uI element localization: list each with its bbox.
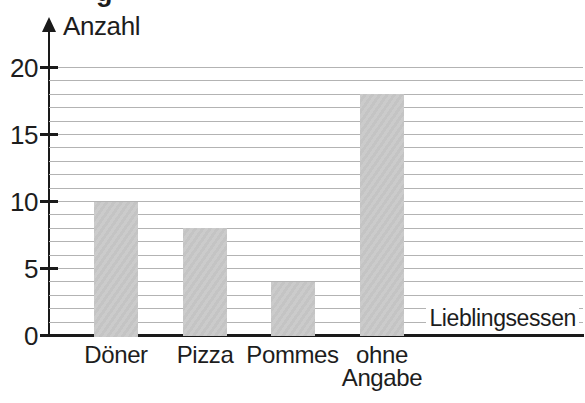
y-tick-15 — [40, 133, 58, 136]
y-tick-label-5: 5 — [0, 254, 38, 284]
y-axis-label: Anzahl — [63, 11, 140, 41]
plot-area: 20151050DönerPizzaPommesohne Angabe — [0, 0, 585, 403]
cropped-text-fragment: g — [92, 0, 122, 10]
y-tick-label-0: 0 — [0, 321, 38, 351]
gridline-20 — [49, 67, 583, 68]
gridline-15 — [49, 134, 583, 135]
x-axis-label: Lieblingsessen — [426, 305, 579, 331]
gridline-18 — [49, 94, 583, 95]
bar-pizza — [183, 228, 227, 336]
bar-chart: g 20151050DönerPizzaPommesohne Angabe An… — [0, 0, 585, 403]
gridline-16 — [49, 121, 583, 122]
y-tick-5 — [40, 267, 58, 270]
gridline-13 — [49, 161, 583, 162]
y-tick-label-15: 15 — [0, 120, 38, 150]
y-tick-label-20: 20 — [0, 53, 38, 83]
gridline-19 — [49, 80, 583, 81]
bar-ohne-angabe — [360, 94, 404, 336]
gridline-17 — [49, 107, 583, 108]
x-category-label-4: ohne Angabe — [327, 343, 437, 389]
gridline-14 — [49, 147, 583, 148]
bar-pommes — [271, 282, 315, 337]
y-tick-20 — [40, 66, 58, 69]
bar-doener — [94, 202, 138, 337]
gridline-12 — [49, 174, 583, 175]
y-tick-label-10: 10 — [0, 187, 38, 217]
gridline-11 — [49, 188, 583, 189]
y-tick-10 — [40, 200, 58, 203]
